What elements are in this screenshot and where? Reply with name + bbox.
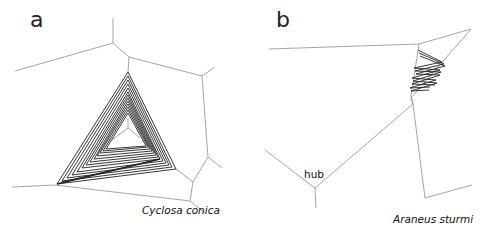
web-diagram: [0, 0, 485, 239]
panel-b-frame: [265, 29, 472, 208]
species-label-a: Cyclosa conica: [142, 204, 220, 216]
panel-b-spiral: [410, 50, 445, 91]
hub-label: hub: [304, 168, 324, 180]
panel-a-frame: [12, 18, 222, 213]
panel-a-spiral: [57, 72, 176, 184]
species-label-b: Araneus sturmi: [393, 213, 473, 225]
